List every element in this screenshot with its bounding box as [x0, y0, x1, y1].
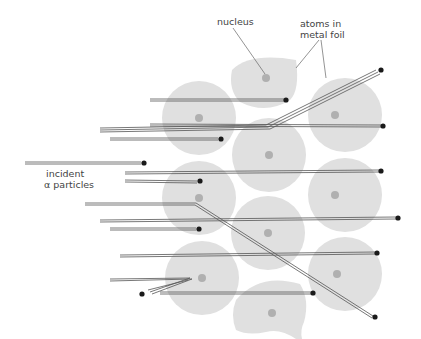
- atom: [308, 78, 382, 152]
- nucleus-label: nucleus: [217, 16, 254, 27]
- nucleus-dot: [262, 74, 270, 82]
- atom: [308, 237, 382, 311]
- atom-bottom: [233, 280, 306, 339]
- atom: [308, 158, 382, 232]
- atoms-label-line1: atoms in: [300, 18, 341, 29]
- nucleus-dot: [195, 194, 203, 202]
- nucleus-dot: [331, 111, 339, 119]
- nucleus-dot: [333, 270, 341, 278]
- incident-label-line1: incident: [46, 168, 84, 179]
- nucleus-dot: [195, 114, 203, 122]
- nucleus-dot: [268, 309, 276, 317]
- nucleus-dot: [198, 274, 206, 282]
- nucleus-dot: [264, 229, 272, 237]
- incident-label-line2: α particles: [44, 179, 94, 190]
- nucleus-dot: [331, 191, 339, 199]
- atoms-label-line2: metal foil: [300, 29, 345, 40]
- atoms-in-metal-foil: [162, 58, 382, 339]
- nucleus-dot: [265, 151, 273, 159]
